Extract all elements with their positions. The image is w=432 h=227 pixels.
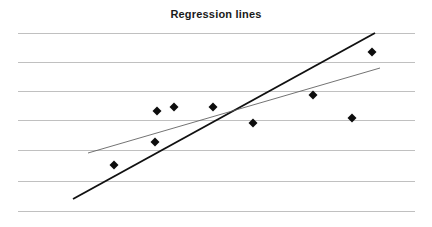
regression-line-steep [73, 33, 375, 199]
data-point-marker [209, 103, 218, 112]
regression-line-shallow [88, 68, 380, 153]
gridlines-group [18, 33, 415, 211]
data-point-marker [170, 103, 179, 112]
regression-chart: Regression lines [0, 0, 432, 227]
data-point-marker [110, 161, 119, 170]
trendlines-group [73, 33, 380, 199]
data-markers-group [110, 48, 377, 170]
data-point-marker [348, 114, 357, 123]
data-point-marker [309, 91, 318, 100]
chart-plot-area [0, 0, 432, 227]
data-point-marker [153, 107, 162, 116]
data-point-marker [368, 48, 377, 57]
data-point-marker [151, 138, 160, 147]
